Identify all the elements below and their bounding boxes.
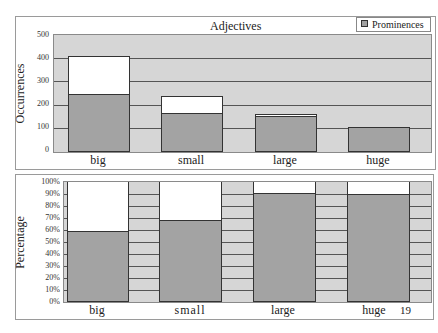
x-label-large: large [245, 153, 325, 168]
y-tick: 50% [30, 237, 60, 246]
bar-large-prominences [256, 116, 316, 151]
x-label-large: large [243, 303, 323, 318]
top-y-axis-title: Occurrences [13, 34, 28, 154]
pct-bar-large-prominences [254, 193, 315, 301]
bar-big [68, 56, 130, 152]
y-tick: 90% [30, 189, 60, 198]
y-tick: 20% [30, 273, 60, 282]
x-label-small: small [150, 303, 230, 318]
bar-big-prominences [69, 94, 129, 151]
bottom-y-axis-title: Percentage [13, 183, 28, 303]
y-tick: 0 [19, 145, 49, 154]
bar-small-prominences [162, 113, 222, 151]
y-tick: 200 [19, 99, 49, 108]
pct-bar-huge [347, 181, 410, 302]
y-tick: 400 [19, 53, 49, 62]
y-tick: 300 [19, 76, 49, 85]
y-tick: 30% [30, 261, 60, 270]
pct-bar-big-prominences [68, 231, 128, 301]
x-label-small: small [151, 153, 231, 168]
y-tick: 0% [30, 297, 60, 306]
y-tick: 80% [30, 201, 60, 210]
pct-bar-small-prominences [160, 220, 221, 301]
bar-small [161, 96, 223, 152]
x-label-huge: huge [338, 153, 418, 168]
y-tick: 60% [30, 225, 60, 234]
y-tick: 100% [30, 177, 60, 186]
y-tick: 500 [19, 30, 49, 39]
legend-label: Prominences [372, 19, 424, 30]
y-tick: 70% [30, 213, 60, 222]
bar-large [255, 114, 317, 152]
y-tick: 40% [30, 249, 60, 258]
legend-swatch-icon [361, 20, 368, 27]
bar-huge-prominences [349, 127, 409, 151]
pct-bar-huge-prominences [348, 194, 409, 301]
x-label-big: big [58, 153, 138, 168]
pct-bar-big [67, 181, 129, 302]
y-tick: 10% [30, 285, 60, 294]
pct-bar-large [253, 181, 316, 302]
top-chart-title: Adjectives [210, 19, 261, 34]
top-plot-area [53, 34, 432, 153]
bar-huge [348, 127, 410, 152]
page-number: 19 [400, 304, 411, 316]
y-tick: 100 [19, 122, 49, 131]
x-label-big: big [57, 303, 137, 318]
legend: Prominences [356, 17, 431, 32]
bottom-plot-area [63, 181, 432, 303]
pct-bar-small [159, 181, 222, 302]
